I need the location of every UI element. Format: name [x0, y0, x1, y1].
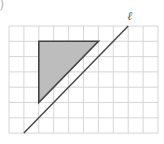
line-label-ell: ℓ — [127, 9, 132, 24]
grid-figure — [0, 0, 164, 144]
